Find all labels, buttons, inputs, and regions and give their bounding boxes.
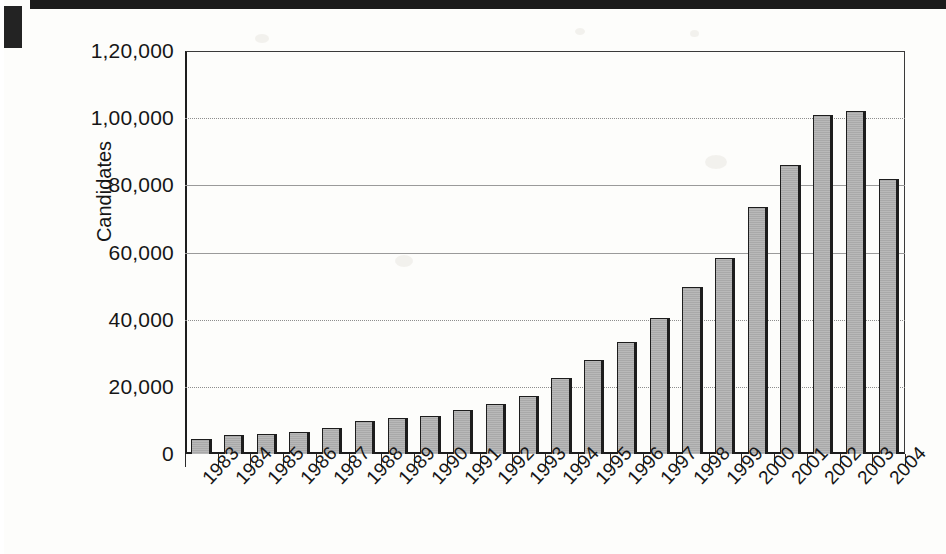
bar-slot: [316, 51, 349, 454]
bar: [682, 287, 702, 454]
bar-slot: [807, 51, 840, 454]
scan-speck-3: [690, 30, 699, 37]
bar: [813, 115, 833, 454]
scan-speck-1: [255, 34, 269, 43]
bar: [748, 207, 768, 454]
bar-slot: [283, 51, 316, 454]
bar: [617, 342, 637, 454]
bar: [879, 179, 899, 454]
bar: [650, 318, 670, 454]
bar-slot: [709, 51, 742, 454]
x-tick: [185, 454, 186, 467]
bar-slot: [185, 51, 218, 454]
y-tick-label: 20,000: [109, 375, 174, 399]
bar: [191, 439, 211, 454]
y-axis-labels: 020,00040,00060,00080,0001,00,0001,20,00…: [60, 0, 182, 554]
bar-slot: [250, 51, 283, 454]
bar-slot: [381, 51, 414, 454]
scanned-page: Candidates 020,00040,00060,00080,0001,00…: [0, 0, 946, 554]
bar-slot: [611, 51, 644, 454]
y-tick-label: 1,00,000: [91, 106, 174, 130]
bar-slot: [545, 51, 578, 454]
bar-slot: [741, 51, 774, 454]
bar-slot: [414, 51, 447, 454]
bar-slot: [676, 51, 709, 454]
bar-series: [185, 51, 905, 454]
bar-slot: [643, 51, 676, 454]
scan-speck-2: [575, 28, 585, 35]
bar: [846, 111, 866, 454]
x-axis-labels: 1983198419851986198719881989199019911992…: [185, 468, 945, 554]
bar-slot: [578, 51, 611, 454]
y-tick-label: 1,20,000: [91, 39, 174, 63]
scan-artifact-left-edge: [0, 0, 4, 554]
bar-slot: [512, 51, 545, 454]
bar: [584, 360, 604, 454]
bar-slot: [447, 51, 480, 454]
bar: [715, 258, 735, 454]
bar-slot: [872, 51, 905, 454]
bar-chart-plot-area: [185, 51, 905, 454]
bar-slot: [349, 51, 382, 454]
y-tick-label: 80,000: [109, 173, 174, 197]
y-tick-label: 60,000: [109, 241, 174, 265]
bar-slot: [218, 51, 251, 454]
bar-slot: [480, 51, 513, 454]
y-tick-label: 0: [162, 442, 174, 466]
y-tick-label: 40,000: [109, 308, 174, 332]
bar: [780, 165, 800, 454]
bar-slot: [840, 51, 873, 454]
bar-slot: [774, 51, 807, 454]
